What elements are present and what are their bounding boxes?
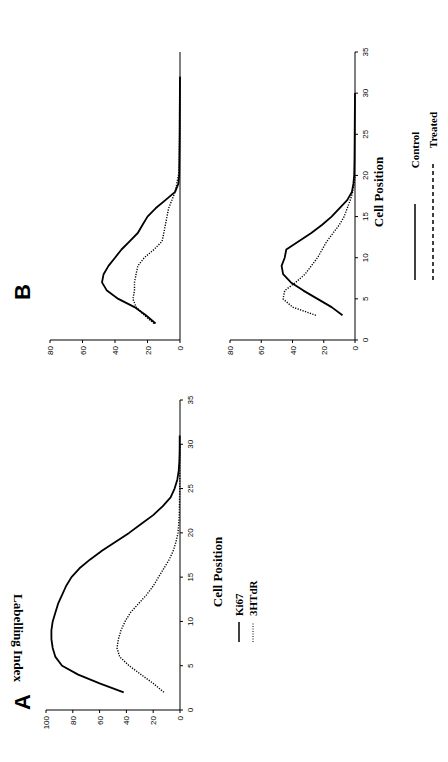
x-tick-label: 25 — [361, 129, 370, 138]
x-tick-label: 5 — [361, 296, 370, 301]
figure-canvas: A 02040608010005101520253035 Cell Positi… — [0, 0, 448, 762]
y-tick-label: 60 — [79, 345, 88, 354]
y-tick-label: 100 — [42, 715, 51, 729]
panel-b-top-axes: 020406080 — [46, 52, 185, 355]
y-tick-label: 80 — [46, 345, 55, 354]
x-tick-label: 20 — [361, 170, 370, 179]
series-ki67-line — [51, 435, 179, 692]
y-tick-label: 0 — [176, 345, 185, 350]
series-control-line — [102, 77, 180, 324]
x-tick-label: 35 — [186, 395, 195, 404]
y-tick-label: 40 — [122, 715, 131, 724]
series-3htdr-line — [117, 444, 180, 692]
y-tick-label: 60 — [96, 715, 105, 724]
legend-treated-label: Treated — [427, 112, 439, 148]
panel-b-bottom-lines — [282, 93, 355, 315]
legend-3htdr-label: 3HTdR — [247, 579, 259, 616]
panel-a-y-axis-title: Labelling Index — [11, 594, 26, 682]
y-tick-label: 40 — [111, 345, 120, 354]
y-tick-label: 0 — [176, 715, 185, 720]
x-tick-label: 10 — [186, 616, 195, 625]
y-tick-label: 80 — [226, 345, 235, 354]
panel-b-legend: Control Treated — [409, 112, 439, 280]
y-tick-label: 60 — [257, 345, 266, 354]
y-tick-label: 80 — [69, 715, 78, 724]
x-tick-label: 0 — [186, 707, 195, 712]
x-tick-label: 35 — [361, 47, 370, 56]
panel-a: A 02040608010005101520253035 Cell Positi… — [10, 395, 259, 729]
y-tick-label: 0 — [351, 345, 360, 350]
panel-b-x-axis-title: Cell Position — [371, 156, 386, 227]
y-tick-label: 20 — [149, 715, 158, 724]
x-tick-label: 30 — [186, 439, 195, 448]
x-tick-label: 15 — [186, 572, 195, 581]
panel-b-letter: B — [10, 284, 35, 300]
x-tick-label: 25 — [186, 484, 195, 493]
x-tick-label: 0 — [361, 337, 370, 342]
panel-a-letter: A — [10, 694, 35, 710]
figure: A 02040608010005101520253035 Cell Positi… — [0, 0, 448, 762]
x-tick-label: 15 — [361, 212, 370, 221]
x-tick-label: 5 — [186, 663, 195, 668]
series-treated-line — [133, 77, 180, 324]
panel-b-top-lines — [102, 77, 180, 324]
y-tick-label: 20 — [320, 345, 329, 354]
series-control-line — [282, 93, 355, 315]
panel-a-legend: Ki67 3HTdR — [233, 579, 259, 642]
y-tick-label: 40 — [289, 345, 298, 354]
panel-a-x-axis-title: Cell Position — [210, 536, 225, 607]
x-tick-label: 20 — [186, 528, 195, 537]
legend-control-label: Control — [409, 132, 421, 168]
y-tick-label: 20 — [144, 345, 153, 354]
x-tick-label: 10 — [361, 253, 370, 262]
panel-b: B 020406080 02040608005101520253035 Cell… — [10, 47, 439, 355]
x-tick-label: 30 — [361, 88, 370, 97]
legend-ki67-label: Ki67 — [233, 593, 245, 616]
panel-a-lines — [51, 435, 180, 692]
panel-a-axes: 02040608010005101520253035 — [42, 395, 195, 729]
